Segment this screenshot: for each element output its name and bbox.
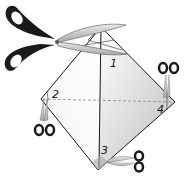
pyramid <box>41 27 175 170</box>
vertex-label-4: 4 <box>157 103 164 116</box>
vertex-label-1: 1 <box>110 57 117 70</box>
pyramid-cutting-diagram: 1 2 3 4 <box>0 0 186 183</box>
vertex-label-3: 3 <box>101 144 108 157</box>
right-face <box>98 27 175 170</box>
vertex-label-2: 2 <box>52 88 59 101</box>
